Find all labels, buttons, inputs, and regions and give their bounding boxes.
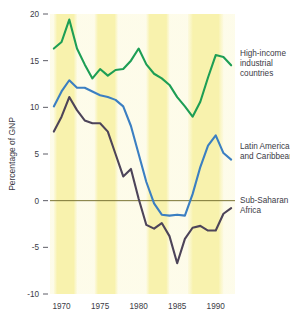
y-tick-label: -5: [32, 243, 40, 252]
y-tick-label: 20: [30, 10, 40, 19]
annotation-high-income-line2: industrial: [240, 59, 273, 68]
annotation-high-income: High-income industrial countries: [240, 49, 286, 78]
y-axis-ticks-group: 20151050-5-10: [27, 10, 48, 299]
y-axis-title: Percentage of GNP: [7, 117, 17, 191]
annotation-sub-saharan-line2: Africa: [240, 206, 261, 215]
shaded-band: [146, 14, 169, 294]
y-tick-label: 5: [34, 150, 39, 159]
y-axis-title-group: Percentage of GNP: [7, 117, 17, 191]
x-tick-label: 1970: [52, 302, 71, 311]
shaded-band: [95, 14, 118, 294]
annotation-latin-america: Latin America and Caribbean: [240, 142, 290, 161]
line-chart: 20151050-5-10 19701975198019851990 Perce…: [0, 0, 290, 329]
x-tick-label: 1985: [168, 302, 187, 311]
y-tick-label: -10: [27, 290, 39, 299]
shaded-band: [54, 14, 77, 294]
x-tick-label: 1990: [207, 302, 226, 311]
x-axis-ticks-group: 19701975198019851990: [52, 302, 225, 311]
y-tick-label: 10: [30, 103, 40, 112]
annotation-sub-saharan-line1: Sub-Saharan: [240, 196, 289, 205]
annotation-latin-america-line2: and Caribbean: [240, 152, 290, 161]
x-tick-label: 1975: [91, 302, 110, 311]
annotation-sub-saharan: Sub-Saharan Africa: [240, 196, 289, 215]
y-tick-label: 0: [34, 197, 39, 206]
y-tick-label: 15: [30, 57, 40, 66]
annotation-high-income-line1: High-income: [240, 49, 286, 58]
annotation-high-income-line3: countries: [240, 69, 273, 78]
x-tick-label: 1980: [130, 302, 149, 311]
annotation-latin-america-line1: Latin America: [240, 142, 290, 151]
chart-container: 20151050-5-10 19701975198019851990 Perce…: [0, 0, 290, 329]
